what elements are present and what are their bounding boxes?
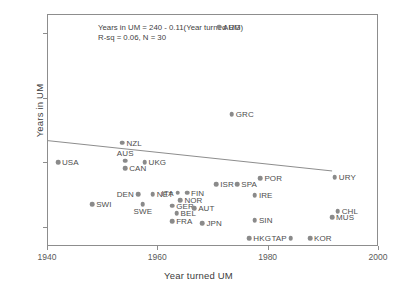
data-point-fin: [185, 191, 190, 196]
x-tick-mark-1980: [268, 246, 269, 250]
data-point-arg: [217, 24, 222, 29]
data-point-ger: [170, 203, 175, 208]
data-point-aut: [192, 206, 197, 211]
point-label-ita: ITA: [161, 188, 173, 197]
y-tick-mark-30: [43, 98, 47, 99]
data-point-fra: [170, 219, 175, 224]
y-tick-mark-40: [43, 33, 47, 34]
point-label-can: CAN: [129, 164, 146, 173]
data-point-net: [151, 192, 156, 197]
x-tick-label-1960: 1960: [127, 252, 187, 262]
data-point-aus: [123, 158, 128, 163]
point-label-arg: ARG: [223, 22, 241, 31]
point-label-grc: GRC: [236, 110, 254, 119]
plot-area: Years in UM = 240 - 0.11(Year turned UM)…: [47, 14, 378, 246]
data-point-den: [136, 192, 141, 197]
data-point-usa: [56, 160, 61, 165]
x-tick-mark-1960: [157, 246, 158, 250]
data-point-kor: [308, 236, 313, 241]
point-label-sin: SIN: [259, 215, 273, 224]
data-point-ita: [175, 191, 180, 196]
data-point-can: [123, 166, 128, 171]
point-label-tap: TAP: [271, 233, 286, 242]
point-label-kor: KOR: [314, 233, 332, 242]
point-label-spa: SPA: [241, 180, 257, 189]
x-tick-mark-2000: [378, 246, 379, 250]
point-label-isr: ISR: [220, 180, 234, 189]
point-label-fra: FRA: [176, 217, 192, 226]
data-point-ury: [333, 175, 338, 180]
y-tick-mark-20: [43, 162, 47, 163]
point-label-mus: MUS: [336, 213, 354, 222]
point-label-jpn: JPN: [206, 219, 221, 228]
point-label-nzl: NZL: [126, 138, 141, 147]
x-tick-label-1940: 1940: [17, 252, 77, 262]
data-point-tap: [288, 236, 293, 241]
data-point-swe: [141, 202, 146, 207]
data-point-isr: [214, 182, 219, 187]
point-label-swi: SWI: [96, 200, 111, 209]
point-label-aus: AUS: [117, 149, 134, 158]
x-tick-mark-1940: [47, 246, 48, 250]
scatter-chart-figure: Years in UM Year turned UM Years in UM =…: [0, 0, 397, 289]
point-label-aut: AUT: [198, 204, 214, 213]
point-label-usa: USA: [62, 157, 79, 166]
point-label-swe: SWE: [134, 207, 153, 216]
y-tick-mark-10: [43, 227, 47, 228]
point-label-ire: IRE: [259, 191, 273, 200]
point-label-den: DEN: [117, 190, 134, 199]
data-point-ire: [253, 193, 258, 198]
data-point-jpn: [200, 221, 205, 226]
data-point-sin: [253, 218, 258, 223]
data-point-swi: [90, 202, 95, 207]
y-axis-title: Years in UM: [34, 66, 45, 156]
x-tick-label-1980: 1980: [238, 252, 298, 262]
data-point-spa: [235, 182, 240, 187]
data-point-bel: [174, 211, 179, 216]
point-label-hkg: HKG: [253, 233, 271, 242]
data-point-mus: [330, 215, 335, 220]
x-tick-label-2000: 2000: [348, 252, 397, 262]
data-point-por: [258, 176, 263, 181]
data-point-hkg: [247, 236, 252, 241]
x-axis-title: Year turned UM: [0, 270, 397, 281]
data-point-nzl: [120, 140, 125, 145]
point-label-por: POR: [264, 174, 282, 183]
point-label-ury: URY: [339, 173, 356, 182]
data-point-grc: [229, 112, 234, 117]
point-label-ukg: UKG: [149, 157, 167, 166]
